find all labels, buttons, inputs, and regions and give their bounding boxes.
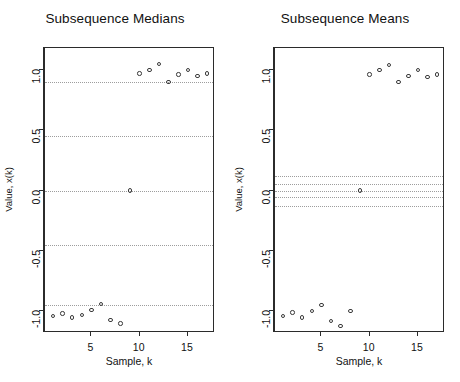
x-tick-mark bbox=[139, 332, 140, 336]
y-tick-label: 0.0 bbox=[30, 190, 42, 205]
data-point bbox=[396, 80, 400, 84]
y-axis-title-label-means: Value, x(k) bbox=[233, 167, 244, 212]
y-tick-label: 1.0 bbox=[260, 69, 272, 84]
y-tick-label: -1.0 bbox=[260, 310, 272, 328]
y-tick-label: -1.0 bbox=[30, 310, 42, 328]
gridline bbox=[275, 176, 443, 177]
data-point bbox=[338, 324, 342, 328]
data-point bbox=[358, 188, 362, 192]
data-point bbox=[137, 71, 141, 75]
gridline bbox=[275, 197, 443, 198]
gridline bbox=[45, 305, 213, 306]
y-tick-label: 0.5 bbox=[260, 129, 272, 144]
x-tick-mark bbox=[187, 332, 188, 336]
x-tick-label: 15 bbox=[181, 341, 193, 353]
data-point bbox=[176, 72, 180, 76]
gridline bbox=[275, 206, 443, 207]
data-point bbox=[157, 62, 161, 66]
data-point bbox=[118, 321, 122, 325]
x-tick-mark bbox=[369, 332, 370, 336]
data-point bbox=[416, 68, 420, 72]
data-point bbox=[435, 72, 439, 76]
gridline bbox=[275, 184, 443, 185]
y-axis-line-means bbox=[273, 47, 274, 332]
x-tick-label: 5 bbox=[317, 341, 323, 353]
data-point bbox=[329, 319, 333, 323]
figure-panel-container: Subsequence Medians Value, x(k) 1.00.50.… bbox=[0, 0, 460, 382]
plot-area-medians bbox=[44, 47, 214, 332]
x-tick-label: 15 bbox=[411, 341, 423, 353]
data-point bbox=[425, 75, 429, 79]
y-axis-line-medians bbox=[43, 47, 44, 332]
data-point bbox=[387, 63, 391, 67]
y-tick-label: -0.5 bbox=[30, 250, 42, 268]
x-tick-label: 10 bbox=[133, 341, 145, 353]
plot-area-means bbox=[274, 47, 444, 332]
data-point bbox=[166, 80, 170, 84]
data-point bbox=[147, 68, 151, 72]
chart-title-medians: Subsequence Medians bbox=[0, 11, 230, 26]
data-point bbox=[377, 68, 381, 72]
y-tick-label: 0.0 bbox=[260, 190, 272, 205]
y-tick-label: -0.5 bbox=[260, 250, 272, 268]
gridline bbox=[45, 136, 213, 137]
data-point bbox=[51, 314, 55, 318]
data-point bbox=[348, 309, 352, 313]
y-tick-label: 0.5 bbox=[30, 129, 42, 144]
x-tick-mark bbox=[417, 332, 418, 336]
y-axis-title-label-medians: Value, x(k) bbox=[3, 167, 14, 212]
data-point bbox=[310, 309, 314, 313]
data-point bbox=[80, 313, 84, 317]
x-tick-label: 5 bbox=[87, 341, 93, 353]
gridline bbox=[45, 82, 213, 83]
y-axis-title-means: Value, x(k) bbox=[232, 47, 244, 332]
gridline bbox=[45, 245, 213, 246]
chart-panel-medians: Subsequence Medians Value, x(k) 1.00.50.… bbox=[0, 0, 230, 382]
data-point bbox=[186, 68, 190, 72]
x-tick-mark bbox=[320, 332, 321, 336]
data-point bbox=[300, 315, 304, 319]
chart-title-means: Subsequence Means bbox=[230, 11, 460, 26]
data-point bbox=[60, 311, 64, 315]
x-axis-title-means: Sample, k bbox=[274, 355, 444, 367]
data-point bbox=[128, 188, 132, 192]
y-axis-title-medians: Value, x(k) bbox=[2, 47, 14, 332]
data-point bbox=[70, 315, 74, 319]
chart-panel-means: Subsequence Means Value, x(k) 1.00.50.0-… bbox=[230, 0, 460, 382]
data-point bbox=[89, 308, 93, 312]
x-tick-mark bbox=[90, 332, 91, 336]
data-point bbox=[195, 74, 199, 78]
data-point bbox=[406, 74, 410, 78]
data-point bbox=[319, 303, 323, 307]
x-axis-title-medians: Sample, k bbox=[44, 355, 214, 367]
y-tick-label: 1.0 bbox=[30, 69, 42, 84]
data-point bbox=[108, 318, 112, 322]
data-point bbox=[205, 71, 209, 75]
data-point bbox=[367, 72, 371, 76]
x-tick-label: 10 bbox=[363, 341, 375, 353]
data-point bbox=[290, 310, 294, 314]
data-point bbox=[281, 314, 285, 318]
